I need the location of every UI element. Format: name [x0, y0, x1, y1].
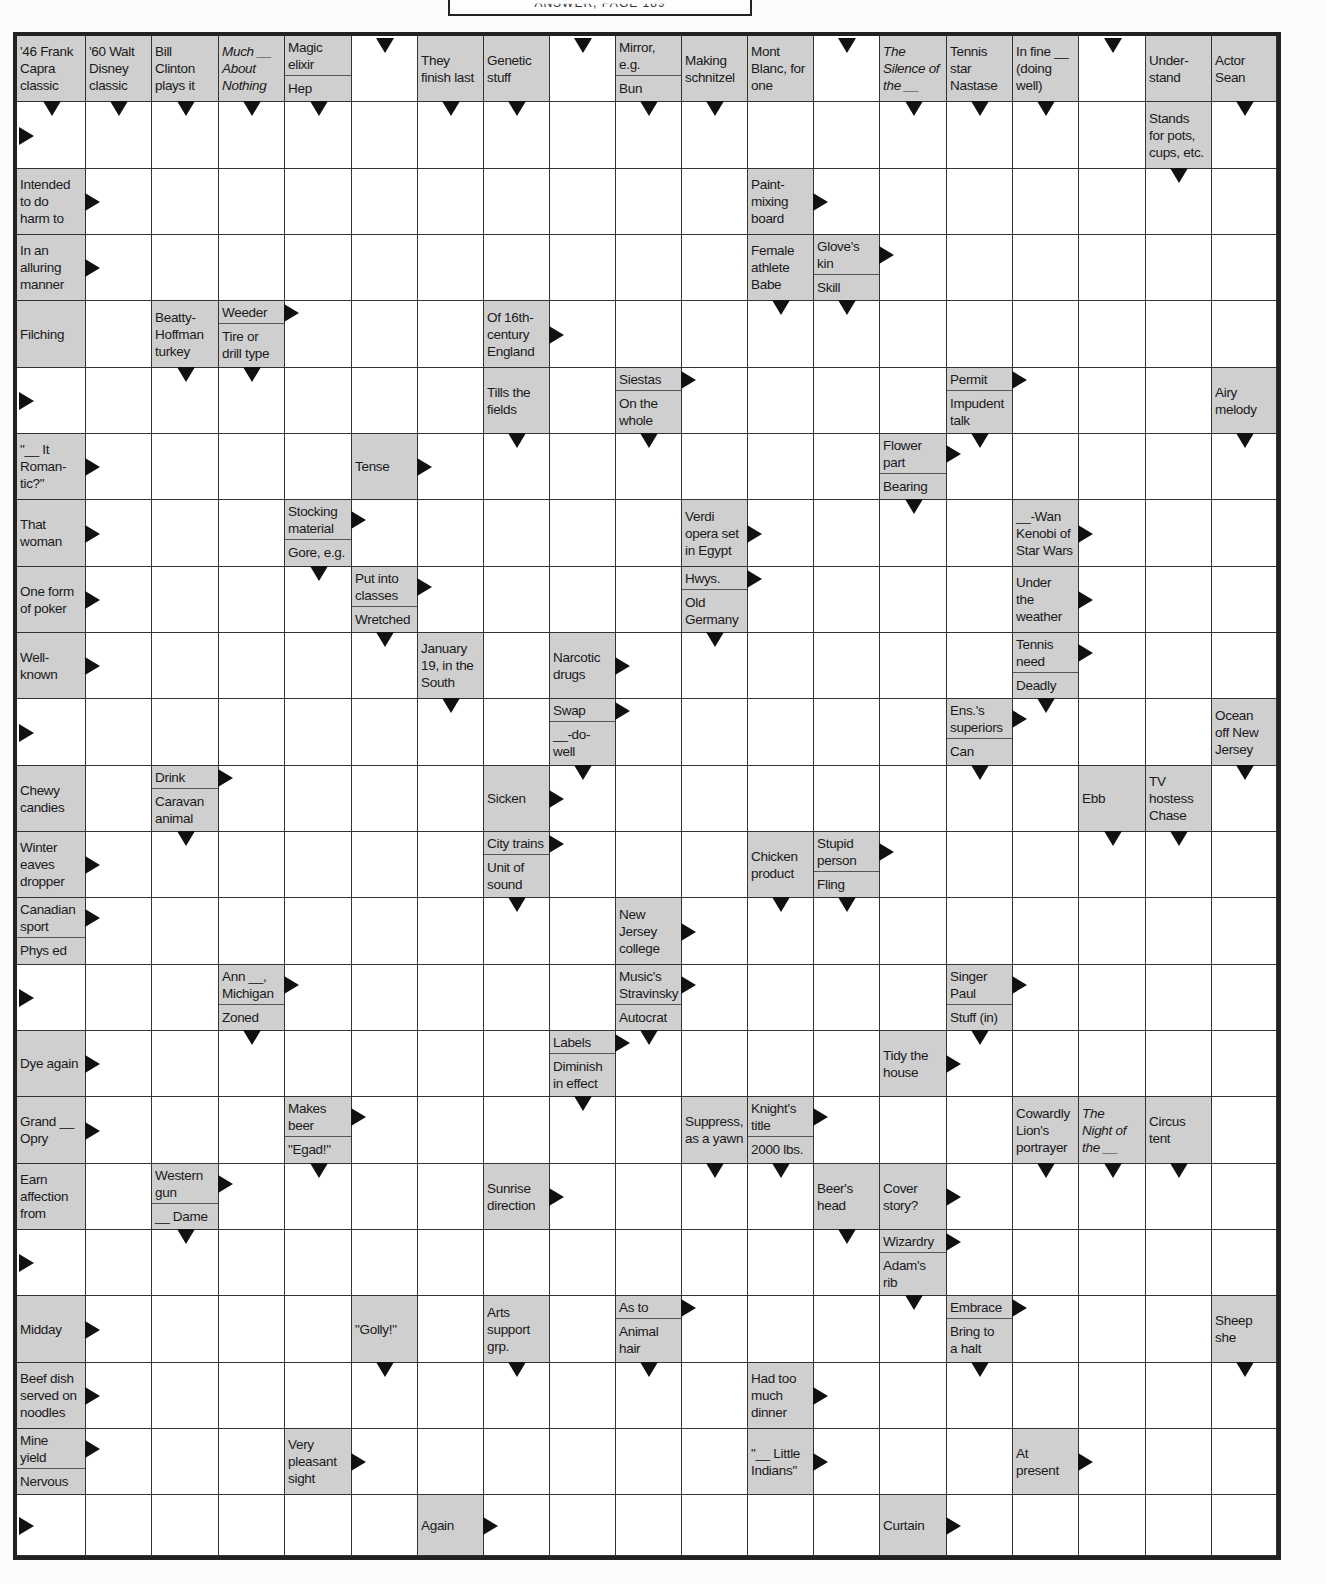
- answer-cell[interactable]: [352, 1230, 418, 1296]
- answer-cell[interactable]: [1079, 434, 1146, 500]
- answer-cell[interactable]: [1079, 169, 1146, 235]
- answer-cell[interactable]: [152, 434, 219, 500]
- answer-cell[interactable]: [748, 1495, 814, 1556]
- answer-cell[interactable]: [947, 169, 1013, 235]
- answer-cell[interactable]: [1212, 567, 1277, 633]
- answer-cell[interactable]: [86, 1429, 152, 1495]
- answer-cell[interactable]: [1212, 1164, 1277, 1230]
- answer-cell[interactable]: [814, 766, 880, 832]
- answer-cell[interactable]: [1212, 1429, 1277, 1495]
- answer-cell[interactable]: [484, 567, 550, 633]
- answer-cell[interactable]: [152, 1296, 219, 1363]
- answer-cell[interactable]: [418, 500, 484, 567]
- answer-cell[interactable]: [616, 500, 682, 567]
- answer-cell[interactable]: [814, 102, 880, 169]
- answer-cell[interactable]: [1146, 434, 1212, 500]
- answer-cell[interactable]: [1079, 633, 1146, 699]
- answer-cell[interactable]: [285, 633, 352, 699]
- answer-cell[interactable]: [484, 699, 550, 766]
- answer-cell[interactable]: [1212, 832, 1277, 898]
- answer-cell[interactable]: [86, 766, 152, 832]
- answer-cell[interactable]: [1146, 1429, 1212, 1495]
- answer-cell[interactable]: [1146, 368, 1212, 434]
- answer-cell[interactable]: [616, 169, 682, 235]
- answer-cell[interactable]: [1079, 102, 1146, 169]
- answer-cell[interactable]: [550, 102, 616, 169]
- answer-cell[interactable]: [352, 1031, 418, 1097]
- answer-cell[interactable]: [219, 1230, 285, 1296]
- answer-cell[interactable]: [219, 169, 285, 235]
- answer-cell[interactable]: [947, 633, 1013, 699]
- answer-cell[interactable]: [285, 235, 352, 301]
- answer-cell[interactable]: [814, 1495, 880, 1556]
- answer-cell[interactable]: [814, 699, 880, 766]
- answer-cell[interactable]: [484, 500, 550, 567]
- answer-cell[interactable]: [152, 235, 219, 301]
- answer-cell[interactable]: [682, 434, 748, 500]
- answer-cell[interactable]: [616, 766, 682, 832]
- answer-cell[interactable]: [219, 1164, 285, 1230]
- answer-cell[interactable]: [1212, 235, 1277, 301]
- answer-cell[interactable]: [748, 434, 814, 500]
- answer-cell[interactable]: [682, 766, 748, 832]
- answer-cell[interactable]: [1013, 898, 1079, 965]
- answer-cell[interactable]: [682, 169, 748, 235]
- answer-cell[interactable]: [1079, 235, 1146, 301]
- answer-cell[interactable]: [285, 965, 352, 1031]
- answer-cell[interactable]: [219, 434, 285, 500]
- answer-cell[interactable]: [550, 1495, 616, 1556]
- answer-cell[interactable]: [152, 1097, 219, 1164]
- answer-cell[interactable]: [418, 898, 484, 965]
- answer-cell[interactable]: [1146, 633, 1212, 699]
- answer-cell[interactable]: [1013, 766, 1079, 832]
- answer-cell[interactable]: [880, 699, 947, 766]
- answer-cell[interactable]: [1013, 1363, 1079, 1429]
- answer-cell[interactable]: [748, 1230, 814, 1296]
- answer-cell[interactable]: [682, 832, 748, 898]
- answer-cell[interactable]: [352, 169, 418, 235]
- answer-cell[interactable]: [219, 633, 285, 699]
- answer-cell[interactable]: [1146, 699, 1212, 766]
- answer-cell[interactable]: [1146, 1495, 1212, 1556]
- answer-cell[interactable]: [682, 1495, 748, 1556]
- answer-cell[interactable]: [152, 633, 219, 699]
- answer-cell[interactable]: [1079, 965, 1146, 1031]
- answer-cell[interactable]: [550, 235, 616, 301]
- answer-cell[interactable]: [1212, 301, 1277, 368]
- answer-cell[interactable]: [814, 368, 880, 434]
- answer-cell[interactable]: [1146, 1296, 1212, 1363]
- answer-cell[interactable]: [152, 500, 219, 567]
- answer-cell[interactable]: [1146, 500, 1212, 567]
- answer-cell[interactable]: [947, 832, 1013, 898]
- answer-cell[interactable]: [880, 633, 947, 699]
- answer-cell[interactable]: [550, 434, 616, 500]
- answer-cell[interactable]: [285, 434, 352, 500]
- answer-cell[interactable]: [550, 368, 616, 434]
- answer-cell[interactable]: [1013, 301, 1079, 368]
- answer-cell[interactable]: [1079, 301, 1146, 368]
- answer-cell[interactable]: [418, 1429, 484, 1495]
- answer-cell[interactable]: [880, 766, 947, 832]
- answer-cell[interactable]: [418, 1164, 484, 1230]
- answer-cell[interactable]: [1079, 898, 1146, 965]
- answer-cell[interactable]: [616, 1429, 682, 1495]
- answer-cell[interactable]: [152, 965, 219, 1031]
- answer-cell[interactable]: [484, 1230, 550, 1296]
- answer-cell[interactable]: [1146, 1230, 1212, 1296]
- answer-cell[interactable]: [285, 1495, 352, 1556]
- answer-cell[interactable]: [814, 1031, 880, 1097]
- answer-cell[interactable]: [418, 965, 484, 1031]
- answer-cell[interactable]: [484, 1097, 550, 1164]
- answer-cell[interactable]: [1212, 633, 1277, 699]
- answer-cell[interactable]: [947, 898, 1013, 965]
- answer-cell[interactable]: [285, 1296, 352, 1363]
- answer-cell[interactable]: [880, 1363, 947, 1429]
- answer-cell[interactable]: [1146, 898, 1212, 965]
- answer-cell[interactable]: [1212, 898, 1277, 965]
- answer-cell[interactable]: [285, 898, 352, 965]
- answer-cell[interactable]: [880, 567, 947, 633]
- answer-cell[interactable]: [880, 1097, 947, 1164]
- answer-cell[interactable]: [550, 1230, 616, 1296]
- answer-cell[interactable]: [219, 1296, 285, 1363]
- answer-cell[interactable]: [1212, 1230, 1277, 1296]
